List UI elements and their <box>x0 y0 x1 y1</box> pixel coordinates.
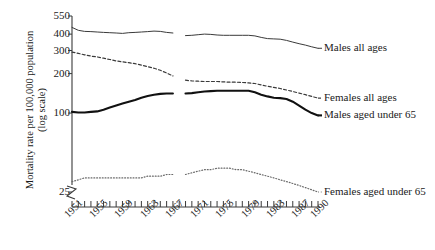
series-line-males-aged-under-65 <box>186 91 319 116</box>
chart-container: Mortality rate per 100,000 population (l… <box>0 0 435 250</box>
series-line-males-all-ages <box>186 34 319 48</box>
series-line-males-all-ages <box>72 27 173 33</box>
series-line-females-aged-under-65 <box>72 175 173 182</box>
series-line-females-all-ages <box>72 52 173 76</box>
data-lines <box>72 27 322 192</box>
series-line-males-aged-under-65 <box>72 94 173 113</box>
series-line-females-aged-under-65 <box>186 168 319 192</box>
plot-area <box>0 0 435 250</box>
series-line-females-all-ages <box>186 80 319 98</box>
